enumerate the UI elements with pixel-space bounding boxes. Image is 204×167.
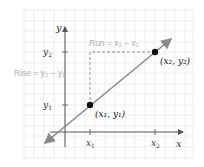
x1-label: x1 — [86, 138, 95, 149]
x-axis-label: x — [176, 138, 182, 149]
point-2 — [152, 49, 158, 55]
y-axis-label: y — [55, 22, 62, 33]
y2-label: y2 — [42, 47, 52, 58]
x2-label: x2 — [151, 138, 160, 149]
y1-label: y1 — [42, 100, 52, 111]
grid — [24, 10, 193, 158]
point-1 — [87, 102, 93, 108]
run-annotation: Run = x₂ − x₁ — [89, 38, 139, 48]
slope-diagram: y x y2 y1 x1 x2 (x₁, y₁) (x₂, y₂) Run = … — [0, 0, 204, 167]
rise-annotation: Rise = y₂ − y₁ — [14, 68, 65, 78]
point-2-label: (x₂, y₂) — [160, 56, 191, 66]
point-1-label: (x₁, y₁) — [95, 109, 126, 119]
